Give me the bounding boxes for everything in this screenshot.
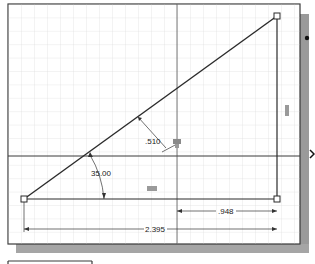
bullet-icon <box>305 36 309 40</box>
dimension-offset-text[interactable]: .510 <box>145 137 161 146</box>
window-shadow-right <box>300 14 309 253</box>
dimension-base-text[interactable]: 2.395 <box>145 225 166 234</box>
sketch-canvas[interactable]: .510 35.00 .948 2.395 <box>0 0 315 264</box>
vertical-constraint-icon[interactable] <box>285 105 289 116</box>
horizontal-constraint-icon[interactable] <box>147 186 157 191</box>
dimension-partial-base-text[interactable]: .948 <box>218 207 234 216</box>
dimension-angle-text[interactable]: 35.00 <box>91 169 112 178</box>
window-shadow-bottom <box>16 244 309 253</box>
chevron-right-icon <box>310 150 314 158</box>
endpoint-bottom-right[interactable] <box>274 196 280 202</box>
endpoint-bottom-left[interactable] <box>21 196 27 202</box>
grid <box>9 5 300 244</box>
endpoint-top-right[interactable] <box>274 13 280 19</box>
